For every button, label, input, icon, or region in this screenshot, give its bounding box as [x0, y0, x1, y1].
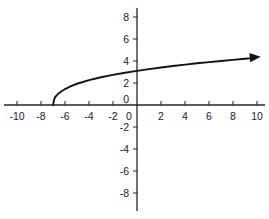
x-tick-label: 10: [251, 110, 263, 122]
x-tick-label: -2: [108, 110, 117, 122]
x-tick-label: -6: [60, 110, 69, 122]
y-tick-label: -4: [120, 143, 129, 155]
square-root-curve: [53, 58, 250, 105]
y-tick-label: 4: [123, 55, 129, 67]
x-tick-label: 6: [206, 110, 212, 122]
y-tick-label: 6: [123, 33, 129, 45]
y-tick-label: 2: [123, 77, 129, 89]
y-tick-label: 8: [123, 11, 129, 23]
y-tick-label: -6: [120, 165, 129, 177]
x-axis-tick-labels: -10-8-6-4-20246810: [9, 110, 263, 122]
origin-label: 0: [123, 93, 129, 105]
x-tick-label: 2: [158, 110, 164, 122]
x-tick-label: 8: [230, 110, 236, 122]
x-tick-label: -10: [9, 110, 24, 122]
y-tick-label: -8: [120, 187, 129, 199]
graph-canvas: -10-8-6-4-20246810 8642-2-4-6-80: [0, 0, 269, 219]
curve-arrow-head-icon: [249, 53, 260, 62]
coordinate-plane-figure: -10-8-6-4-20246810 8642-2-4-6-80: [0, 0, 269, 219]
y-tick-label: -2: [120, 121, 129, 133]
x-tick-label: 4: [182, 110, 188, 122]
x-tick-label: -8: [36, 110, 45, 122]
x-tick-label: -4: [84, 110, 93, 122]
